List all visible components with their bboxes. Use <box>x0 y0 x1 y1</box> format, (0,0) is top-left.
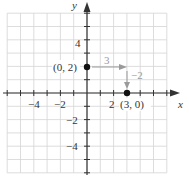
rise-label: −2 <box>131 69 143 81</box>
coordinate-plane: x y −4 −2 2 4 −2 −4 3 −2 (0, 2) (3, 0) <box>0 0 189 178</box>
rise-arrowhead-icon <box>124 82 130 89</box>
tick-label-y-4: 4 <box>75 37 81 49</box>
y-axis-arrow-icon <box>84 2 91 12</box>
tick-label-x--4: −4 <box>28 98 40 110</box>
y-axis-label: y <box>71 0 77 11</box>
tick-label-x-2: 2 <box>109 98 115 110</box>
tick-label-y--2: −2 <box>66 114 78 126</box>
tick-label-y--4: −4 <box>66 140 78 152</box>
tick-label-x--2: −2 <box>54 98 66 110</box>
point-0-2 <box>84 64 90 70</box>
point-label-3-0: (3, 0) <box>120 98 144 111</box>
x-axis-label: x <box>177 98 183 110</box>
point-3-0 <box>124 90 130 96</box>
run-label: 3 <box>104 54 110 66</box>
point-label-0-2: (0, 2) <box>53 61 77 74</box>
x-axis-arrow-icon <box>170 90 180 97</box>
run-arrowhead-icon <box>119 64 127 70</box>
